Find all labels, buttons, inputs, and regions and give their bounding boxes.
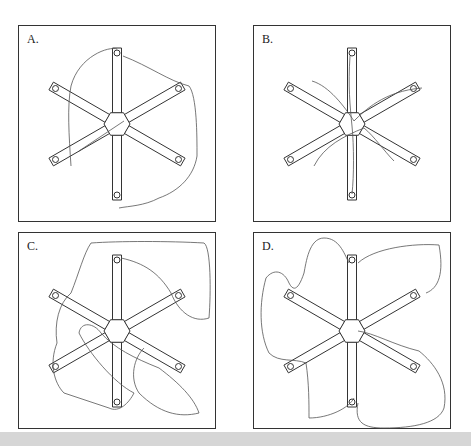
radial-arm-maze bbox=[49, 48, 185, 200]
panel-c: C. bbox=[18, 232, 216, 429]
radial-arm-maze bbox=[284, 255, 420, 407]
maze-arm bbox=[113, 48, 122, 113]
maze-arm bbox=[348, 342, 357, 407]
bottom-band bbox=[0, 432, 471, 446]
maze-diagram-c bbox=[19, 233, 217, 430]
maze-diagram-b bbox=[254, 26, 452, 223]
panel-b: B. bbox=[253, 25, 451, 222]
panel-a: A. bbox=[18, 25, 216, 222]
maze-arm bbox=[113, 342, 122, 407]
maze-diagram-a bbox=[19, 26, 217, 223]
maze-diagram-d bbox=[254, 233, 452, 430]
trajectory-path bbox=[312, 56, 422, 194]
radial-arm-maze bbox=[49, 255, 185, 407]
panel-d: D. bbox=[253, 232, 451, 429]
maze-arm bbox=[113, 255, 122, 320]
maze-arm bbox=[113, 135, 122, 200]
maze-arm bbox=[348, 255, 357, 320]
